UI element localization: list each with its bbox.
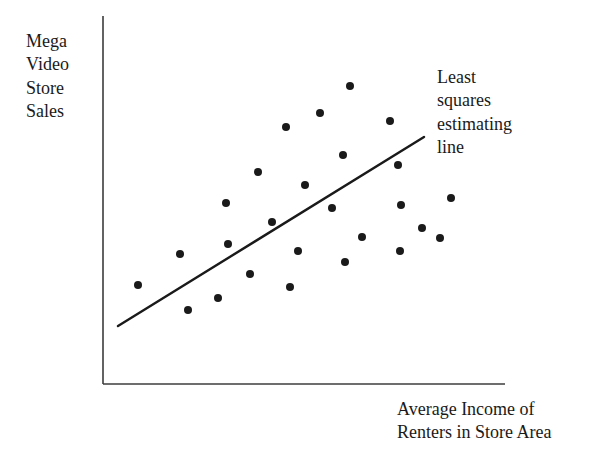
x-axis-title: Average Income ofRenters in Store Area (397, 398, 551, 445)
annotation-line-1: Least (437, 66, 512, 89)
scatter-point (396, 247, 404, 255)
x-axis-title-line-1: Average Income of (397, 398, 551, 421)
annotation-line-4: line (437, 136, 512, 159)
scatter-point (386, 117, 394, 125)
y-axis-title-line-3: Store (26, 77, 69, 100)
least-squares-line (118, 137, 424, 326)
scatter-points-group (134, 82, 455, 314)
scatter-point (176, 250, 184, 258)
scatter-point (282, 123, 290, 131)
regression-line-group (118, 137, 424, 326)
x-axis-title-line-2: Renters in Store Area (397, 421, 551, 444)
y-axis-title-line-4: Sales (26, 100, 69, 123)
figure-canvas: MegaVideoStoreSales Leastsquaresestimati… (0, 0, 590, 466)
scatter-point (254, 168, 262, 176)
annotation-line-2: squares (437, 89, 512, 112)
scatter-point (328, 204, 336, 212)
scatter-point (246, 270, 254, 278)
scatter-point (447, 194, 455, 202)
y-axis-title-line-2: Video (26, 53, 69, 76)
scatter-point (358, 233, 366, 241)
scatter-point (134, 281, 142, 289)
scatter-point (184, 306, 192, 314)
scatter-point (316, 109, 324, 117)
scatter-point (214, 294, 222, 302)
annotation-line-3: estimating (437, 113, 512, 136)
scatter-point (436, 234, 444, 242)
regression-line-annotation: Leastsquaresestimatingline (437, 66, 512, 160)
scatter-point (397, 201, 405, 209)
scatter-point (286, 283, 294, 291)
scatter-point (224, 240, 232, 248)
scatter-point (339, 151, 347, 159)
scatter-point (222, 199, 230, 207)
y-axis-title-line-1: Mega (26, 30, 69, 53)
scatter-point (346, 82, 354, 90)
scatter-point (268, 218, 276, 226)
scatter-point (294, 247, 302, 255)
scatter-point (301, 181, 309, 189)
scatter-point (418, 224, 426, 232)
y-axis-title: MegaVideoStoreSales (26, 30, 69, 124)
scatter-point (341, 258, 349, 266)
scatter-point (394, 161, 402, 169)
